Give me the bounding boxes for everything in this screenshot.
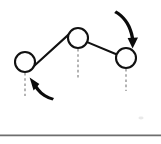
open-circle-joint-icon-right[interactable]: [116, 48, 136, 68]
figure-root: [0, 0, 161, 144]
node-diagram-canvas: [0, 0, 161, 144]
open-circle-joint-icon-middle[interactable]: [68, 28, 88, 48]
open-circle-joint-icon-left[interactable]: [15, 52, 35, 72]
faint-speck: [138, 117, 143, 120]
